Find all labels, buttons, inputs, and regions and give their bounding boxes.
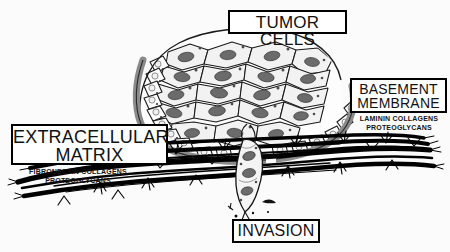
label-tumor-cells-text: TUMOR CELLS — [230, 14, 345, 49]
bm-component-proteoglycans: PROTEOGLYCANS — [366, 124, 432, 131]
basement-membrane-components: LAMININ COLLAGENS PROTEOGLYCANS — [352, 114, 446, 133]
label-extracellular-matrix[interactable]: EXTRACELLULAR MATRIX — [11, 124, 168, 165]
label-invasion[interactable]: INVASION — [232, 219, 320, 243]
bm-component-collagens: COLLAGENS — [392, 115, 438, 122]
ecm-component-collagens: COLLAGENS — [81, 168, 127, 175]
diagram-canvas: TUMOR CELLS BASEMENT MEMBRANE LAMININ CO… — [0, 0, 450, 252]
extracellular-matrix-components: FIBRONECTIN COLLAGENS PROTEOGLYCANS — [23, 167, 133, 186]
label-basement-membrane-line2: MEMBRANE — [352, 96, 445, 110]
label-extracellular-matrix-line1: EXTRACELLULAR — [13, 128, 166, 146]
label-tumor-cells[interactable]: TUMOR CELLS — [228, 10, 347, 34]
ecm-component-fibronectin: FIBRONECTIN — [29, 168, 79, 175]
bm-component-laminin: LAMININ — [360, 115, 391, 122]
label-basement-membrane-line1: BASEMENT — [352, 82, 445, 96]
label-basement-membrane[interactable]: BASEMENT MEMBRANE — [350, 78, 447, 113]
label-extracellular-matrix-line2: MATRIX — [13, 146, 166, 164]
ecm-component-proteoglycans: PROTEOGLYCANS — [45, 177, 111, 184]
label-invasion-text: INVASION — [234, 223, 318, 239]
